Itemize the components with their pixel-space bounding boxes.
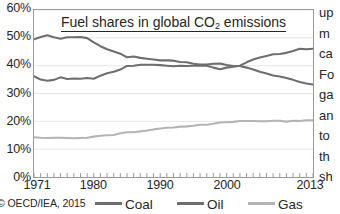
chart-title-text: Fuel shares in global CO2 emissions [61, 14, 286, 32]
chart-title: Fuel shares in global CO2 emissions [33, 14, 314, 32]
legend-item-gas[interactable]: Gas [248, 195, 303, 213]
side-text-line: m [319, 27, 330, 40]
side-text-line: sh [319, 170, 333, 183]
x-axis: 19711980199020002013 [0, 179, 316, 195]
y-tick-label-20: 20% [7, 115, 31, 128]
x-tick-label-1980: 1980 [80, 179, 107, 192]
plot-svg [34, 10, 313, 177]
side-text-column: upmcaFogaantothsh [319, 0, 340, 190]
y-axis: 60%50%40%30%20%10%0% [0, 0, 33, 192]
chart-footer: © OECD/IEA, 2015 CoalOilGas [0, 196, 340, 214]
y-tick-label-10: 10% [7, 143, 31, 156]
chart-title-subscript: 2 [215, 21, 220, 31]
x-tick-label-2000: 2000 [214, 179, 241, 192]
y-tick-label-50: 50% [7, 30, 31, 43]
side-text-line: an [319, 109, 333, 122]
plot-area [33, 9, 314, 178]
legend-swatch-gas-icon [248, 202, 275, 205]
legend-swatch-coal-icon [95, 202, 122, 205]
legend-item-coal[interactable]: Coal [95, 195, 153, 213]
side-text-line: ga [319, 88, 333, 101]
legend-swatch-oil-icon [177, 202, 204, 205]
legend-item-oil[interactable]: Oil [177, 195, 224, 213]
copyright-notice: © OECD/IEA, 2015 [0, 197, 85, 210]
y-tick-label-40: 40% [7, 58, 31, 71]
side-text-line: Fo [319, 68, 334, 81]
legend-label-coal: Coal [125, 197, 153, 212]
series-line-oil [34, 35, 313, 84]
x-tick-label-1990: 1990 [147, 179, 174, 192]
chart-figure: 60%50%40%30%20%10%0% Fuel shares in glob… [0, 0, 316, 192]
chart-title-prefix: Fuel shares in global CO [61, 14, 215, 32]
y-tick-label-60: 60% [7, 2, 31, 15]
x-tick-label-1971: 1971 [23, 179, 50, 192]
side-text-line: th [319, 150, 330, 163]
legend-label-oil: Oil [207, 197, 224, 212]
series-line-gas [34, 120, 313, 138]
chart-title-suffix: emissions [220, 14, 286, 32]
legend-label-gas: Gas [278, 197, 303, 212]
side-text-line: ca [319, 47, 333, 60]
side-text-line: up [319, 6, 333, 19]
y-tick-label-30: 30% [7, 87, 31, 100]
side-text-line: to [319, 129, 330, 142]
